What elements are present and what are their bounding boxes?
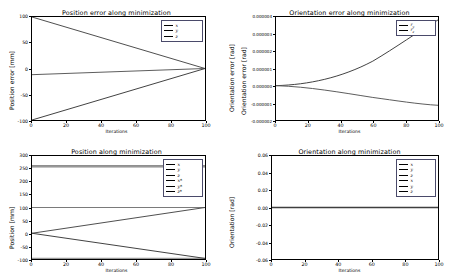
x-tick-mark: [171, 121, 172, 123]
chart-panel-position: Position along minimization Position [mm…: [0, 139, 233, 278]
y-tick-mark: [29, 208, 31, 209]
legend-label-y2: y: [411, 184, 413, 189]
x-tick-mark: [439, 121, 440, 123]
y-tick-label: 0.02: [258, 188, 268, 193]
x-tick-label: 20: [305, 123, 311, 128]
x-tick-mark: [275, 121, 276, 123]
legend-label-z-star: z*: [178, 189, 183, 194]
x-tick-mark: [308, 121, 309, 123]
legend-swatch-y: [399, 169, 408, 170]
x-axis-label: Iterations: [233, 268, 466, 273]
y-tick-mark: [269, 190, 271, 191]
y-tick-mark: [29, 234, 31, 235]
y-tick-label: -50: [20, 92, 28, 97]
y-axis-label-right-top: Orientation error [rad]: [228, 44, 235, 112]
legend-label-y: y: [176, 28, 178, 33]
legend-label-z: z: [176, 34, 178, 39]
y-tick-mark: [273, 69, 275, 70]
y-tick-mark: [269, 173, 271, 174]
y-tick-mark: [269, 243, 271, 244]
legend-swatch-y2: [399, 186, 408, 187]
x-tick-mark: [171, 260, 172, 262]
y-tick-mark: [269, 208, 271, 209]
y-tick-labels: 0.000004 0.000003 0.000002 0.000001 0.00…: [233, 0, 272, 139]
y-tick-label: 0.00: [258, 205, 268, 210]
legend-label-rz: rz: [411, 27, 415, 34]
series-line-z: [32, 69, 205, 121]
legend-label-y-star: y*: [178, 184, 183, 189]
y-tick-label: 150: [19, 192, 28, 197]
x-tick-mark: [406, 121, 407, 123]
x-tick-mark: [206, 260, 207, 262]
y-tick-label: 200: [19, 179, 28, 184]
legend-label-x-star: x*: [178, 178, 183, 183]
series-line-y: [32, 69, 205, 75]
legend-label-x: x: [176, 23, 178, 28]
x-tick-mark: [338, 260, 339, 262]
y-tick-mark: [29, 181, 31, 182]
y-tick-label: -100: [18, 119, 28, 124]
y-tick-mark: [29, 194, 31, 195]
x-tick-mark: [66, 260, 67, 262]
series-line-z: [32, 233, 205, 258]
plot-axes: ry rz: [275, 16, 439, 121]
x-tick-label: 60: [133, 123, 139, 128]
legend-item: rz: [399, 28, 433, 34]
x-tick-mark: [439, 260, 440, 262]
y-tick-label: -0.000002: [251, 119, 272, 124]
chart-panel-position-error: Position error along minimization Positi…: [0, 0, 233, 139]
y-tick-mark: [29, 221, 31, 222]
y-tick-mark: [269, 225, 271, 226]
x-tick-mark: [373, 121, 374, 123]
y-tick-label: 100: [19, 14, 28, 19]
y-tick-labels: 0.06 0.04 0.02 0.00 -0.02 -0.04 -0.06: [233, 139, 268, 278]
x-tick-mark: [31, 260, 32, 262]
x-axis-label: Iterations: [0, 268, 233, 273]
legend-swatch-y: [164, 30, 173, 31]
y-tick-mark: [29, 155, 31, 156]
x-tick-label: 20: [63, 123, 69, 128]
x-tick-label: 80: [168, 262, 174, 267]
y-tick-mark: [29, 168, 31, 169]
legend-label-z2: z: [411, 189, 413, 194]
x-tick-label: 100: [201, 262, 210, 267]
legend-label-z: z: [411, 173, 413, 178]
y-tick-label: 0: [25, 231, 28, 236]
chart-legend[interactable]: x y z: [161, 20, 203, 42]
x-tick-label: 80: [168, 123, 174, 128]
legend-swatch-x-star: [166, 180, 175, 181]
y-tick-label: 0.000000: [252, 84, 272, 89]
y-tick-label: 0.000003: [252, 31, 272, 36]
y-tick-mark: [273, 16, 275, 17]
y-tick-mark: [29, 16, 31, 17]
legend-swatch-x: [166, 164, 175, 165]
y-tick-mark: [273, 104, 275, 105]
legend-item: z: [399, 189, 433, 195]
x-axis-label: Iterations: [0, 129, 233, 134]
y-tick-mark: [29, 69, 31, 70]
x-tick-label: 60: [369, 262, 375, 267]
y-tick-label: 0: [25, 66, 28, 71]
y-tick-mark: [269, 155, 271, 156]
x-tick-mark: [31, 121, 32, 123]
y-tick-label: -100: [18, 258, 28, 263]
legend-swatch-x2: [399, 180, 408, 181]
x-tick-mark: [271, 260, 272, 262]
chart-legend[interactable]: x y z x* y*: [163, 159, 203, 197]
plot-axes: x y z x* y*: [31, 155, 206, 260]
y-tick-mark: [273, 51, 275, 52]
y-tick-mark: [273, 86, 275, 87]
chart-legend[interactable]: x y z x y: [396, 159, 436, 197]
legend-swatch-rz: [399, 30, 408, 31]
x-tick-label: 40: [338, 123, 344, 128]
legend-swatch-z: [166, 175, 175, 176]
y-tick-label: -0.04: [256, 240, 268, 245]
y-tick-label: 300: [19, 153, 28, 158]
chart-legend[interactable]: ry rz: [396, 20, 436, 36]
chart-panel-orientation: Orientation along minimization x y z: [233, 139, 466, 278]
legend-swatch-x: [164, 25, 173, 26]
x-tick-mark: [101, 121, 102, 123]
x-tick-mark: [405, 260, 406, 262]
legend-label-y: y: [178, 167, 180, 172]
x-tick-label: 40: [98, 123, 104, 128]
